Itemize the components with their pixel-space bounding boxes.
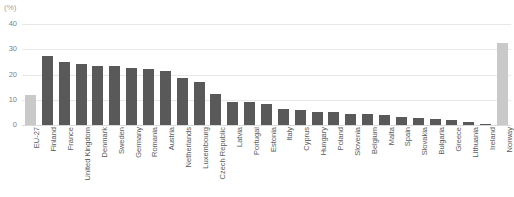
x-label: Belgium	[371, 100, 379, 127]
x-label-text: United Kingdom	[84, 127, 92, 180]
x-label-text: Belgium	[371, 127, 379, 154]
y-tick-label-20: 20	[9, 71, 17, 79]
x-label-text: Italy	[286, 127, 294, 141]
x-label: Austria	[168, 104, 176, 127]
x-label: Luxembourg	[202, 85, 210, 127]
x-label: France	[67, 104, 75, 127]
x-label: Germany	[135, 96, 143, 127]
x-label-text: Greece	[455, 127, 463, 152]
x-axis-category-labels: EU-27FinlandFranceUnited KingdomDenmarkS…	[22, 127, 511, 195]
x-label-text: EU-27	[33, 127, 41, 148]
x-label: EU-27	[33, 106, 41, 127]
x-label: Slovakia	[421, 99, 429, 127]
x-label-text: Austria	[168, 127, 176, 150]
x-label-text: Germany	[135, 127, 143, 158]
x-label-text: Slovakia	[421, 127, 429, 155]
x-label-text: Norway	[506, 127, 514, 152]
x-label: Netherlands	[185, 87, 193, 127]
x-label: Lithuania	[472, 97, 480, 127]
x-label: Italy	[286, 113, 294, 127]
x-label: United Kingdom	[84, 74, 92, 127]
x-label-text: Sweden	[118, 127, 126, 154]
x-label-text: Cyprus	[303, 127, 311, 151]
x-label-text: Latvia	[236, 127, 244, 147]
x-label: Portugal	[253, 99, 261, 127]
x-label-text: Netherlands	[185, 127, 193, 167]
x-label-text: Estonia	[270, 127, 278, 152]
x-label: Bulgaria	[438, 99, 446, 127]
x-label: Romania	[151, 97, 159, 127]
x-label-text: Czech Republic	[219, 127, 227, 180]
x-label: Finland	[50, 102, 58, 127]
x-label-text: Romania	[151, 127, 159, 157]
y-axis-unit-label: (%)	[4, 3, 16, 13]
x-label: Estonia	[270, 102, 278, 127]
x-label: Poland	[337, 104, 345, 127]
x-label-text: Lithuania	[472, 127, 480, 157]
x-label-text: Denmark	[101, 127, 109, 157]
x-label-text: Luxembourg	[202, 127, 210, 169]
y-tick-label-30: 30	[9, 45, 17, 53]
y-tick-label-10: 10	[9, 96, 17, 104]
x-label: Latvia	[236, 107, 244, 127]
x-label: Spain	[404, 108, 412, 127]
x-label: Cyprus	[303, 103, 311, 127]
x-label-text: Slovenia	[354, 127, 362, 156]
x-label-text: Poland	[337, 127, 345, 150]
x-label: Sweden	[118, 100, 126, 127]
x-label-text: Finland	[50, 127, 58, 152]
x-label-text: Hungary	[320, 127, 328, 155]
x-label: Norway	[506, 102, 514, 127]
y-axis-tick-labels: 010203040	[0, 24, 20, 125]
x-label: Hungary	[320, 99, 328, 127]
x-label: Ireland	[489, 104, 497, 127]
x-label-text: Bulgaria	[438, 127, 446, 155]
y-tick-label-0: 0	[13, 121, 17, 129]
x-label-text: Spain	[404, 127, 412, 146]
x-label: Czech Republic	[219, 74, 227, 127]
x-label-text: France	[67, 127, 75, 150]
x-label: Denmark	[101, 97, 109, 127]
x-label-text: Portugal	[253, 127, 261, 155]
x-label-text: Malta	[388, 127, 396, 145]
x-label: Slovenia	[354, 98, 362, 127]
x-label: Malta	[388, 109, 396, 127]
x-label-text: Ireland	[489, 127, 497, 150]
y-tick-label-40: 40	[9, 20, 17, 28]
x-label: Greece	[455, 102, 463, 127]
